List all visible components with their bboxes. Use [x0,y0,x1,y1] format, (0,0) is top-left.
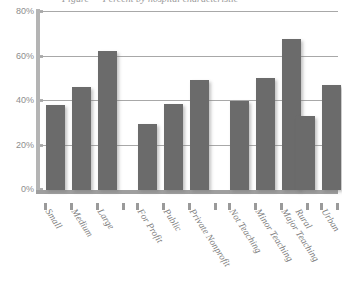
x-tick-7 [214,203,217,210]
y-tick-label-60: 60% [4,52,34,61]
bar-rural-final[interactable] [296,116,315,190]
x-label-for-profit: For Profit [136,207,165,245]
bar-large[interactable] [98,51,117,190]
value-axis-line [36,9,40,193]
chart-title-clipped: Figure — Percent by hospital characteris… [0,0,342,4]
bar-not-teaching[interactable] [230,101,249,191]
x-label-medium: Medium [70,207,95,239]
y-tick-label-80: 80% [4,7,34,16]
y-tick-label-0: 0% [4,185,34,194]
bar-for-profit[interactable] [138,124,157,190]
bar-small[interactable] [46,105,65,190]
x-tick-3 [122,203,125,210]
x-label-urban: Urban [320,207,342,233]
chart-title-text: Figure — Percent by hospital characteris… [62,0,238,4]
bar-public[interactable] [164,104,183,190]
plot-area: Small Medium Large For Profit Public Pri… [40,11,338,190]
x-tick-13 [336,203,339,210]
gridline-80 [40,11,338,12]
x-label-private-nonprofit: Private Nonprofit [188,207,233,269]
bar-urban[interactable] [322,85,341,190]
x-label-small: Small [44,207,64,231]
x-label-large: Large [96,207,117,231]
bar-minor-teaching[interactable] [256,78,275,190]
bar-private-nonprofit[interactable] [190,80,209,190]
y-tick-label-40: 40% [4,96,34,105]
bar-medium[interactable] [72,87,91,190]
x-tick-11 [306,203,309,210]
x-label-public: Public [162,207,184,233]
category-axis-line [36,190,338,194]
y-tick-label-20: 20% [4,141,34,150]
bar-chart: Figure — Percent by hospital characteris… [0,0,342,281]
